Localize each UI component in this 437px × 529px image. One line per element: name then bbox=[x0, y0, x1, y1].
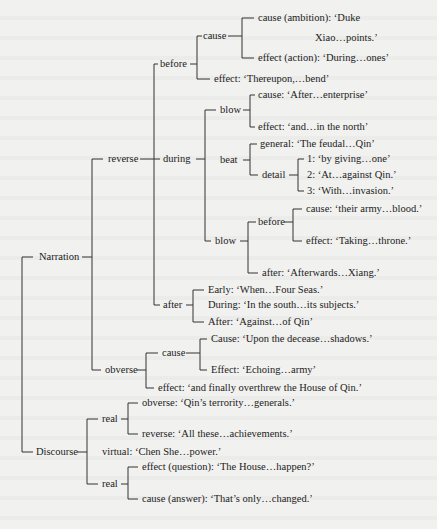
leaf-obverse-cause-effect: Effect: ‘Echoing…army’ bbox=[211, 364, 316, 376]
leaf-blow1-effect: effect: ‘and…in the north’ bbox=[258, 121, 368, 133]
leaf-virtual: virtual: ‘Chen She…power.’ bbox=[102, 446, 221, 458]
leaf-detail-2: 2: ‘At…against Qin.’ bbox=[307, 169, 397, 181]
leaf-real2-cause: cause (answer): ‘That’s only…changed.’ bbox=[142, 493, 313, 505]
node-before-cause: cause bbox=[203, 30, 226, 42]
node-reverse: reverse bbox=[108, 153, 138, 165]
leaf-after-after: After: ‘Against…of Qin’ bbox=[208, 316, 313, 328]
node-blow-1: blow bbox=[220, 104, 241, 116]
leaf-real1-reverse: reverse: ‘All these…achievements.’ bbox=[142, 428, 293, 440]
leaf-obverse-effect: effect: ‘and finally overthrew the House… bbox=[158, 382, 362, 394]
node-blow-2: blow bbox=[215, 235, 236, 247]
leaf-real2-effect: effect (question): ‘The House…happen?’ bbox=[142, 461, 315, 473]
leaf-before-effect: effect: ‘Thereupon,…bend’ bbox=[214, 73, 329, 85]
node-obverse: obverse bbox=[105, 364, 138, 376]
leaf-cause-ambition-cont: Xiao…points.’ bbox=[315, 32, 378, 44]
node-before: before bbox=[160, 58, 187, 70]
node-real-2: real bbox=[102, 478, 118, 490]
leaf-cause-ambition: cause (ambition): ‘Duke bbox=[258, 12, 360, 24]
leaf-detail-1: 1: ‘by giving…one’ bbox=[307, 153, 390, 165]
leaf-real1-obverse: obverse: ‘Qin’s terrority…generals.’ bbox=[142, 397, 295, 409]
node-after: after bbox=[163, 299, 182, 311]
leaf-detail-3: 3: ‘With…invasion.’ bbox=[307, 185, 394, 197]
leaf-after-during: During: ‘In the south…its subjects.’ bbox=[208, 299, 359, 311]
node-discourse: Discourse bbox=[36, 446, 78, 458]
leaf-beat-general: general: ‘The feudal…Qin’ bbox=[260, 138, 375, 150]
leaf-effect-action: effect (action): ‘During…ones’ bbox=[258, 52, 389, 64]
node-blow2-before: before bbox=[258, 216, 285, 228]
leaf-blow2-effect: effect: ‘Taking…throne.’ bbox=[306, 235, 411, 247]
leaf-blow2-after: after: ‘Afterwards…Xiang.’ bbox=[262, 267, 380, 279]
node-during: during bbox=[163, 153, 190, 165]
node-beat-detail: detail bbox=[262, 169, 285, 181]
node-real-1: real bbox=[102, 413, 118, 425]
leaf-blow1-cause: cause: ‘After…enterprise’ bbox=[258, 89, 368, 101]
leaf-blow2-cause: cause: ‘their army…blood.’ bbox=[306, 203, 422, 215]
leaf-obverse-cause-cause: Cause: ‘Upon the decease…shadows.’ bbox=[211, 333, 373, 345]
leaf-after-early: Early: ‘When…Four Seas.’ bbox=[208, 284, 323, 296]
node-beat: beat bbox=[220, 154, 238, 166]
node-narration: Narration bbox=[39, 251, 79, 263]
node-obverse-cause: cause bbox=[162, 347, 185, 359]
